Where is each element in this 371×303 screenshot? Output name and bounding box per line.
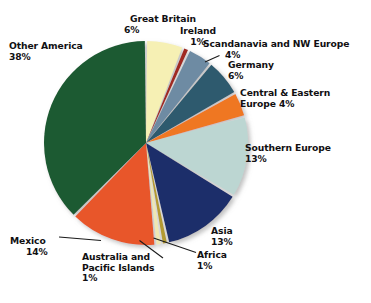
slice-label-africa-pct: 1% [197,261,243,272]
slice-label-southern-europe: Southern Europe 13% [245,143,351,164]
slice-label-germany-name: Germany [228,59,274,70]
slice-label-southern-europe-pct: 13% [245,154,351,165]
slice-label-asia-pct: 13% [211,237,253,248]
slice-label-australia-pct: 1% [82,273,178,284]
slice-label-asia: Asia 13% [211,226,253,247]
slice-label-australia-line1: Australia and [82,251,150,262]
slice-label-central-eastern-europe: Central & Eastern Europe 4% [240,88,342,109]
slice-label-asia-name: Asia [211,225,233,236]
slice-label-other-america: Other America 38% [9,41,107,62]
slice-label-great-britain-name: Great Britain [130,13,196,24]
slice-label-other-america-pct: 38% [9,52,107,63]
pie-slice-group [44,41,248,245]
slice-label-australia-pacific: Australia and Pacific Islands 1% [82,252,178,284]
slice-label-ireland-name: Ireland [180,25,216,36]
slice-label-africa: Africa 1% [197,250,243,271]
pie-chart-figure: Great Britain 6% Ireland 1% Scandanavia … [0,0,371,303]
slice-label-germany-pct: 6% [228,71,300,82]
slice-label-other-america-name: Other America [9,40,83,51]
slice-label-mexico-name: Mexico [10,235,46,246]
slice-label-germany: Germany 6% [228,60,300,81]
slice-label-central-eastern-europe-pct: Europe 4% [240,99,342,110]
slice-label-southern-europe-name: Southern Europe [245,142,331,153]
slice-label-africa-name: Africa [197,249,227,260]
slice-label-scandinavia-name: Scandanavia and NW Europe [203,38,349,49]
slice-label-central-eastern-europe-name: Central & Eastern [240,87,330,98]
slice-label-scandinavia: Scandanavia and NW Europe 4% [203,39,369,60]
slice-label-mexico: Mexico 14% [10,236,66,257]
slice-label-mexico-pct: 14% [26,247,66,258]
